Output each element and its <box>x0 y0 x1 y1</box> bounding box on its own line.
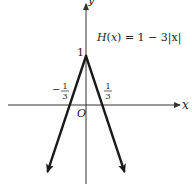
x-tick-label-neg-one-third: − 1 3 <box>52 82 69 101</box>
tick-denominator: 3 <box>63 92 68 101</box>
graph-canvas: x y O 1 − 1 3 1 3 H(x) = 1 − 3|x| <box>0 0 192 186</box>
tick-denominator: 3 <box>105 92 110 101</box>
y-tick-label-1: 1 <box>77 46 84 59</box>
function-name: H <box>96 31 107 44</box>
x-tick-label-one-third: 1 3 <box>104 82 112 101</box>
function-expression: = 1 − 3|x| <box>125 31 182 45</box>
x-axis-label: x <box>182 98 189 112</box>
function-label: H(x) = 1 − 3|x| <box>96 31 181 45</box>
tick-sign: − <box>52 84 60 95</box>
y-axis-label: y <box>87 0 95 7</box>
paren-close: ) <box>117 31 125 44</box>
tick-numerator: 1 <box>105 82 110 91</box>
origin-label: O <box>77 107 86 120</box>
series-segment-right <box>86 56 124 171</box>
tick-numerator: 1 <box>63 82 68 91</box>
